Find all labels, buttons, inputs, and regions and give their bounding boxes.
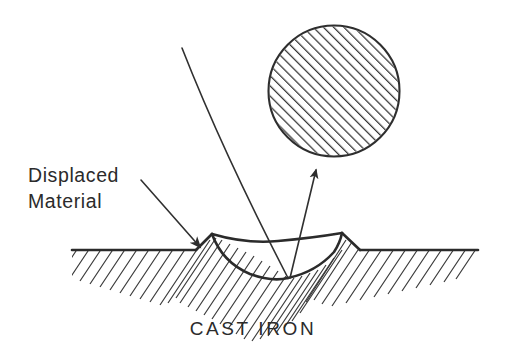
abrasive-wear-diagram: Displaced Material CAST IRON <box>0 0 507 353</box>
groove-lip-profile <box>212 233 342 242</box>
figure-canvas: Displaced Material CAST IRON <box>0 0 507 353</box>
displaced-material-label-line2: Material <box>28 190 102 212</box>
abrasive-particle <box>269 26 400 157</box>
abrasive-particle-hatch-fill <box>270 27 399 156</box>
particle-exit-arrow <box>290 170 316 278</box>
substrate-label: CAST IRON <box>190 318 317 339</box>
displaced-material-arrow <box>141 180 200 247</box>
displaced-material-label-line1: Displaced <box>28 164 119 186</box>
